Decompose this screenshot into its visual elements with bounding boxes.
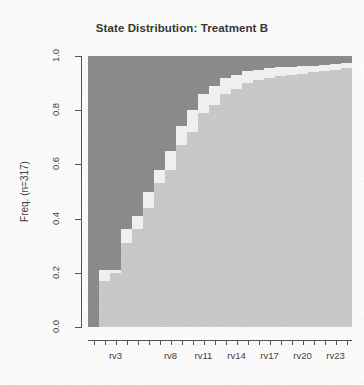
stack-segment-state-light <box>242 83 254 327</box>
stacked-column <box>143 56 155 327</box>
y-axis-tick <box>75 56 81 57</box>
x-axis-tick <box>204 340 205 345</box>
stack-segment-state-dark <box>242 56 254 71</box>
stack-segment-state-dark <box>110 56 122 270</box>
stack-segment-state-white <box>308 65 320 72</box>
plot-area <box>88 56 352 327</box>
y-axis-tick-label: 1.0 <box>50 39 61 73</box>
y-axis-tick <box>75 219 81 220</box>
stack-segment-state-white <box>253 69 265 80</box>
x-axis-tick <box>182 340 183 345</box>
x-axis-tick <box>248 340 249 345</box>
stack-segment-state-white <box>264 68 276 78</box>
stacked-column <box>209 56 221 327</box>
stack-segment-state-light <box>286 74 298 327</box>
stacked-column <box>165 56 177 327</box>
stack-segment-state-light <box>143 207 155 327</box>
stack-segment-state-white <box>143 191 155 208</box>
stack-segment-state-dark <box>297 56 309 66</box>
stack-segment-state-dark <box>176 56 188 126</box>
stack-segment-state-light <box>341 68 352 327</box>
x-axis-tick <box>259 340 260 345</box>
stacked-column <box>220 56 232 327</box>
stacked-column <box>187 56 199 327</box>
stack-segment-state-light <box>110 272 122 327</box>
stack-segment-state-dark <box>198 56 210 94</box>
stack-segment-state-dark <box>341 56 352 63</box>
stack-segment-state-dark <box>220 56 232 78</box>
y-axis-tick <box>75 164 81 165</box>
stack-segment-state-light <box>176 145 188 327</box>
stack-segment-state-white <box>154 169 166 183</box>
x-axis-tick <box>292 340 293 345</box>
x-axis-tick <box>303 340 304 345</box>
y-axis-tick <box>75 110 81 111</box>
stack-segment-state-dark <box>330 56 342 64</box>
stack-segment-state-white <box>286 66 298 75</box>
stack-segment-state-light <box>165 169 177 327</box>
x-axis-tick <box>138 340 139 345</box>
stack-segment-state-white <box>220 77 232 94</box>
stack-segment-state-light <box>264 77 276 327</box>
x-axis-tick <box>105 340 106 345</box>
x-axis-tick <box>325 340 326 345</box>
y-axis-tick <box>75 327 81 328</box>
y-axis-tick-label: 0.8 <box>50 93 61 127</box>
stack-segment-state-dark <box>154 56 166 170</box>
stacked-column <box>231 56 243 327</box>
y-axis-label: Freq. (n=317) <box>19 107 30 277</box>
stack-segment-state-dark <box>132 56 144 216</box>
y-axis-tick-label: 0.6 <box>50 147 61 181</box>
stacked-column <box>341 56 352 327</box>
stack-segment-state-dark <box>319 56 331 65</box>
stacked-column <box>319 56 331 327</box>
stack-segment-state-dark <box>308 56 320 66</box>
stacked-column <box>110 56 122 327</box>
stack-segment-state-light <box>99 280 111 327</box>
stack-segment-state-white <box>319 64 331 71</box>
stack-segment-state-white <box>330 64 342 70</box>
stack-segment-state-dark <box>231 56 243 75</box>
stacked-column <box>330 56 342 327</box>
stack-segment-state-white <box>275 67 287 76</box>
stack-segment-state-light <box>308 72 320 327</box>
stacked-column <box>275 56 287 327</box>
stack-segment-state-light <box>220 93 232 327</box>
stack-segment-state-light <box>319 70 331 327</box>
stacked-column <box>286 56 298 327</box>
stack-segment-state-white <box>176 126 188 145</box>
stacked-column <box>198 56 210 327</box>
x-axis-tick-label: rv3 <box>96 350 136 361</box>
y-axis-label-wrapper: Freq. (n=317) <box>13 110 35 280</box>
stack-segment-state-dark <box>88 56 100 327</box>
x-axis-tick <box>116 340 117 345</box>
stack-segment-state-dark <box>209 56 221 86</box>
x-axis-tick <box>193 340 194 345</box>
stack-segment-state-dark <box>99 56 111 270</box>
stack-segment-state-white <box>132 215 144 229</box>
y-axis-tick-label: 0.2 <box>50 255 61 289</box>
y-axis-tick-label: 0.0 <box>50 310 61 344</box>
stack-segment-state-light <box>297 73 309 327</box>
stack-segment-state-white <box>231 74 243 88</box>
stacked-column <box>121 56 133 327</box>
stack-segment-state-light <box>132 229 144 327</box>
x-axis-tick <box>171 340 172 345</box>
stack-segment-state-white <box>121 229 133 243</box>
stack-segment-state-light <box>231 88 243 327</box>
stack-segment-state-white <box>165 150 177 169</box>
stack-segment-state-dark <box>187 56 199 110</box>
stacked-column <box>132 56 144 327</box>
x-axis-tick <box>226 340 227 345</box>
stacked-column <box>253 56 265 327</box>
stack-segment-state-white <box>99 270 111 281</box>
stack-segment-state-dark <box>264 56 276 68</box>
stacked-column <box>242 56 254 327</box>
stack-segment-state-dark <box>121 56 133 229</box>
stack-segment-state-dark <box>275 56 287 67</box>
x-axis-tick <box>347 340 348 345</box>
stack-segment-state-white <box>242 70 254 83</box>
y-axis-line <box>81 56 82 328</box>
x-axis-tick-label: rv23 <box>316 350 356 361</box>
stack-segment-state-light <box>209 104 221 327</box>
